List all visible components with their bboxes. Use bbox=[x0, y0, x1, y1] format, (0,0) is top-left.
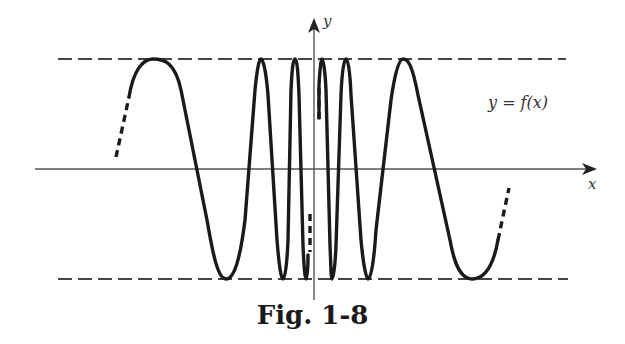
y-axis-label: y bbox=[322, 12, 332, 30]
curve-left-dashed-tail bbox=[116, 97, 129, 157]
curve-right-dashed-tail bbox=[498, 188, 509, 240]
function-graph: y x y = f(x) bbox=[0, 0, 625, 344]
x-axis-label: x bbox=[588, 175, 597, 193]
figure-caption: Fig. 1-8 bbox=[0, 300, 625, 330]
function-label: y = f(x) bbox=[487, 93, 548, 112]
